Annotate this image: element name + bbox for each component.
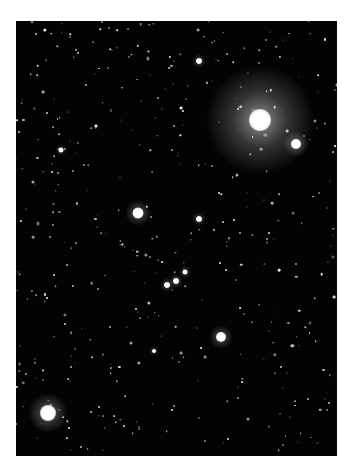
faint-star bbox=[126, 326, 127, 327]
faint-star bbox=[294, 405, 296, 407]
faint-star bbox=[296, 336, 297, 337]
faint-star bbox=[98, 406, 100, 408]
faint-star bbox=[152, 239, 153, 240]
faint-star bbox=[70, 381, 71, 382]
faint-star bbox=[150, 150, 151, 151]
faint-star bbox=[97, 227, 98, 228]
faint-star bbox=[66, 421, 67, 422]
faint-star bbox=[70, 449, 71, 450]
faint-star bbox=[300, 432, 302, 434]
faint-star bbox=[182, 110, 184, 112]
faint-star bbox=[67, 378, 69, 380]
faint-star bbox=[226, 400, 227, 401]
faint-star bbox=[221, 194, 222, 195]
faint-star bbox=[179, 164, 180, 165]
faint-star bbox=[158, 315, 159, 316]
faint-star bbox=[278, 450, 279, 451]
faint-star bbox=[334, 145, 336, 147]
faint-star bbox=[227, 438, 229, 440]
faint-star bbox=[222, 221, 224, 223]
faint-star bbox=[318, 192, 320, 194]
faint-star bbox=[57, 118, 59, 120]
faint-star bbox=[75, 49, 77, 51]
faint-star bbox=[136, 255, 138, 257]
faint-star bbox=[64, 323, 66, 325]
faint-star bbox=[105, 233, 106, 234]
faint-star bbox=[265, 39, 267, 41]
faint-star bbox=[295, 263, 297, 265]
faint-star bbox=[59, 117, 61, 119]
faint-star bbox=[52, 126, 54, 128]
faint-star bbox=[242, 378, 243, 379]
faint-star bbox=[94, 124, 97, 127]
faint-star bbox=[319, 409, 322, 412]
faint-star bbox=[72, 170, 74, 172]
faint-star bbox=[152, 404, 153, 405]
faint-star bbox=[219, 262, 221, 264]
faint-star bbox=[20, 345, 21, 346]
faint-star bbox=[282, 444, 284, 446]
faint-star bbox=[99, 415, 100, 416]
faint-star bbox=[20, 220, 22, 222]
faint-star bbox=[333, 228, 334, 229]
faint-star bbox=[182, 124, 183, 125]
faint-star bbox=[57, 172, 59, 174]
faint-star bbox=[216, 58, 217, 59]
faint-star bbox=[32, 236, 35, 239]
bright-star bbox=[40, 405, 56, 421]
faint-star bbox=[34, 358, 35, 359]
bright-star bbox=[196, 58, 202, 64]
faint-star bbox=[52, 224, 54, 226]
faint-star bbox=[147, 302, 150, 305]
faint-star bbox=[325, 123, 326, 124]
faint-star bbox=[42, 379, 44, 381]
faint-star bbox=[140, 100, 141, 101]
faint-star bbox=[36, 222, 39, 225]
faint-star bbox=[102, 449, 103, 450]
faint-star bbox=[241, 381, 243, 383]
faint-star bbox=[31, 290, 33, 292]
faint-star bbox=[72, 285, 74, 287]
faint-star bbox=[332, 296, 335, 299]
faint-star bbox=[160, 336, 161, 337]
faint-star bbox=[177, 152, 178, 153]
faint-star bbox=[82, 329, 83, 330]
faint-star bbox=[271, 202, 274, 205]
faint-star bbox=[110, 372, 112, 374]
faint-star bbox=[139, 144, 140, 145]
faint-star bbox=[298, 277, 299, 278]
faint-star bbox=[196, 28, 199, 31]
faint-star bbox=[264, 359, 265, 360]
faint-star bbox=[124, 246, 126, 248]
faint-star bbox=[21, 100, 22, 101]
faint-star bbox=[246, 206, 247, 207]
faint-star bbox=[138, 428, 140, 430]
faint-star bbox=[69, 140, 70, 141]
faint-star bbox=[243, 313, 245, 315]
faint-star bbox=[180, 135, 181, 136]
faint-star bbox=[137, 45, 140, 48]
faint-star bbox=[226, 53, 228, 55]
faint-star bbox=[102, 102, 104, 104]
faint-star bbox=[87, 190, 88, 191]
faint-star bbox=[280, 366, 282, 368]
faint-star bbox=[98, 68, 100, 70]
faint-star bbox=[210, 165, 212, 167]
faint-star bbox=[270, 31, 271, 32]
faint-star bbox=[164, 89, 165, 90]
faint-star bbox=[127, 28, 129, 30]
faint-star bbox=[22, 406, 24, 408]
faint-star bbox=[55, 190, 57, 192]
faint-star bbox=[205, 163, 206, 164]
faint-star bbox=[166, 430, 167, 431]
faint-star bbox=[129, 341, 132, 344]
faint-star bbox=[139, 23, 142, 26]
faint-star bbox=[21, 103, 23, 105]
faint-star bbox=[68, 111, 69, 112]
faint-star bbox=[151, 171, 153, 173]
faint-star bbox=[301, 223, 303, 225]
faint-star bbox=[203, 355, 206, 358]
faint-star bbox=[288, 33, 290, 35]
faint-star bbox=[292, 212, 295, 215]
faint-star bbox=[232, 176, 234, 178]
